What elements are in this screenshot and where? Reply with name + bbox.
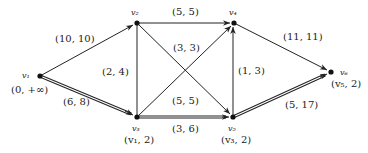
flow-network-diagram: v₁ v₂ v₃ v₄ v₅ v₆ (0, +∞) (v₁, 2) (v₃, 2… xyxy=(0,0,368,153)
edge-label-v5-v4: (1, 3) xyxy=(238,65,265,76)
node-mark-v1: (0, +∞) xyxy=(11,84,48,95)
edge-label-v5-v6: (5, 17) xyxy=(285,99,318,110)
node-v1 xyxy=(37,73,42,78)
edge-label-v2-v5: (3, 3) xyxy=(173,42,200,53)
node-label-v6: v₆ xyxy=(340,68,349,77)
edge-label-v4-v6: (11, 11) xyxy=(283,31,323,42)
node-label-v4: v₄ xyxy=(229,8,237,17)
edge-label-v1-v2: (10, 10) xyxy=(55,33,95,44)
node-mark-v5: (v₃, 2) xyxy=(221,134,251,145)
node-mark-v6: (v₅, 2) xyxy=(331,78,361,89)
node-v3 xyxy=(134,114,139,119)
edge-v5-v6 xyxy=(233,74,327,117)
node-v4 xyxy=(231,20,236,25)
edge-label-v3-v4: (5, 5) xyxy=(172,95,199,106)
edge-label-v2-v3: (2, 4) xyxy=(102,66,129,77)
node-label-v2: v₂ xyxy=(131,8,139,17)
node-mark-v3: (v₁, 2) xyxy=(124,134,154,145)
edge-label-v1-v3: (6, 8) xyxy=(63,96,90,107)
node-label-v1: v₁ xyxy=(22,71,30,80)
node-label-v3: v₃ xyxy=(132,124,140,133)
node-v2 xyxy=(134,20,139,25)
node-label-v5: v₅ xyxy=(228,124,237,133)
node-v6 xyxy=(328,69,333,74)
edge-label-v2-v4: (5, 5) xyxy=(172,6,199,17)
edge-label-v3-v5: (3, 6) xyxy=(172,123,199,134)
node-v5 xyxy=(230,114,235,119)
